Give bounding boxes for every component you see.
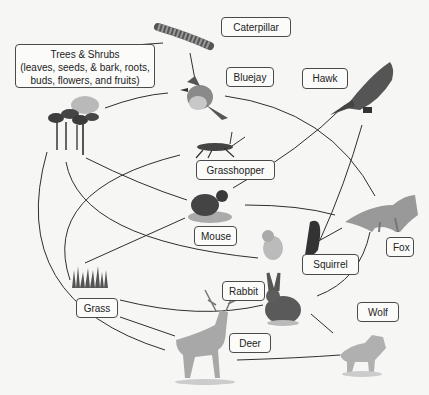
label-trees-shrubs: Trees & Shrubs (leaves, seeds, & bark, r…	[15, 44, 155, 88]
label-fox: Fox	[386, 237, 414, 257]
edge-rabbit-wolf	[311, 314, 333, 333]
label-hawk: Hawk	[302, 68, 348, 89]
edge-mouse-fox	[245, 205, 335, 215]
label-wolf: Wolf	[357, 302, 399, 322]
label-mouse: Mouse	[194, 226, 237, 246]
fox-icon	[345, 195, 418, 232]
mouse-icon	[188, 190, 232, 223]
grasshopper-icon	[196, 132, 245, 158]
grass-icon	[72, 266, 108, 288]
edge-trees-bluejay	[105, 93, 168, 108]
trees-shrubs-detail: (leaves, seeds, & bark, roots, buds, flo…	[20, 61, 150, 87]
label-rabbit: Rabbit	[222, 281, 265, 301]
trees-shrubs-icon	[48, 96, 99, 155]
label-grass: Grass	[76, 298, 118, 318]
rabbit-icon	[265, 273, 301, 326]
edge-trees-mouse	[86, 158, 187, 200]
label-grasshopper: Grasshopper	[196, 160, 275, 180]
edge-bluejay-fox	[225, 96, 375, 196]
label-bluejay: Bluejay	[226, 67, 274, 87]
edge-deer-wolf	[237, 355, 340, 360]
edge-grass-deer	[120, 317, 175, 336]
edge-grass-mouse	[85, 218, 185, 263]
bluejay-icon	[180, 76, 228, 120]
trees-shrubs-title: Trees & Shrubs	[20, 48, 150, 61]
edge-trees-deer	[38, 152, 165, 350]
caterpillar-icon	[158, 27, 210, 46]
deer-icon	[175, 290, 236, 385]
wolf-icon	[340, 335, 386, 377]
edge-grass-rabbit	[120, 300, 263, 311]
label-squirrel: Squirrel	[302, 254, 359, 275]
edge-grass-grasshopper	[65, 155, 180, 280]
label-deer: Deer	[229, 333, 271, 353]
label-caterpillar: Caterpillar	[221, 17, 291, 37]
